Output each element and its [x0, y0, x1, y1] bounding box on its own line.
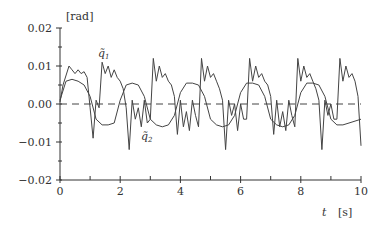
- series-label-q2: q̃2: [141, 130, 153, 144]
- x-tick-label: 0: [57, 185, 64, 198]
- y-tick-label: −0.02: [18, 174, 52, 187]
- x-tick-label: 4: [177, 185, 184, 198]
- x-axis-label-unit: [s]: [338, 206, 352, 219]
- x-axis-label-var: t: [322, 206, 327, 219]
- y-tick-label: 0.00: [28, 98, 53, 111]
- series-label-q1: q̃1: [98, 47, 110, 61]
- series-line-q2: [60, 79, 361, 127]
- x-tick-label: 10: [354, 185, 368, 198]
- axes: 0.020.010.00−0.01−0.020246810: [18, 22, 368, 198]
- y-tick-label: 0.01: [28, 60, 53, 73]
- line-chart: 0.020.010.00−0.01−0.020246810 [rad] t [s…: [0, 0, 392, 229]
- x-tick-label: 8: [297, 185, 304, 198]
- x-tick-label: 6: [237, 185, 244, 198]
- y-axis-label: [rad]: [66, 10, 93, 23]
- y-tick-label: 0.02: [28, 22, 53, 35]
- x-tick-label: 2: [117, 185, 124, 198]
- y-tick-label: −0.01: [18, 136, 52, 149]
